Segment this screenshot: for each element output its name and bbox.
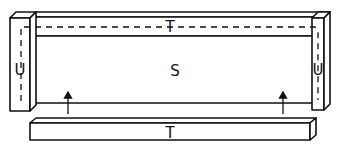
top-beam-label: T	[164, 18, 175, 36]
left-post-label: U	[15, 61, 26, 79]
right-post-label: U	[313, 61, 324, 79]
bottom-beam-label: T	[164, 124, 175, 142]
top-beam	[30, 12, 330, 36]
panel-label: S	[170, 62, 180, 80]
frame-assembly-diagram: T U U S T	[0, 0, 346, 155]
